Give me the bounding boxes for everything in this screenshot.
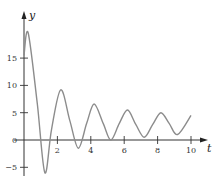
y-axis-label: y <box>28 9 36 22</box>
x-tick-label: 2 <box>55 146 60 155</box>
y-tick-label: 10 <box>7 81 17 90</box>
x-tick-label: 8 <box>155 146 160 155</box>
y-tick-label: 5 <box>12 109 17 118</box>
y-tick-label: −5 <box>5 163 17 172</box>
damped-oscillation-chart: −5051015 246810 t y <box>0 0 220 181</box>
x-axis-label: t <box>207 142 212 155</box>
x-tick-label: 6 <box>122 146 127 155</box>
y-axis-ticks: −5051015 <box>5 54 28 172</box>
y-tick-label: 15 <box>7 54 17 63</box>
y-axis-arrow-icon <box>22 11 27 19</box>
x-tick-label: 10 <box>186 146 196 155</box>
data-series-curve <box>24 31 191 173</box>
x-tick-label: 4 <box>88 146 93 155</box>
